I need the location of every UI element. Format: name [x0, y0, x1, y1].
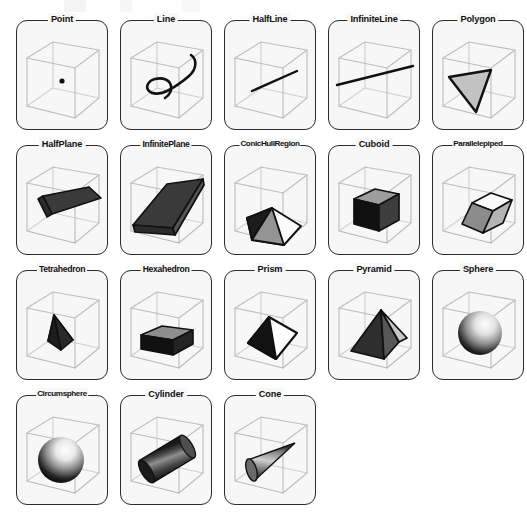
sphere-ball	[458, 311, 502, 355]
card-parallelepiped[interactable]: Parallelepiped	[432, 145, 524, 255]
card-polygon[interactable]: Polygon	[432, 20, 524, 130]
region-primitive-grid: Point Line	[16, 20, 516, 520]
viewport-infiniteplane	[121, 153, 213, 254]
card-title-parallelepiped: Parallelepiped	[452, 138, 503, 150]
viewport-hexahedron	[121, 278, 213, 379]
card-circumsphere[interactable]: Circumsphere	[16, 395, 108, 505]
viewport-halfplane	[17, 153, 109, 254]
card-hexahedron[interactable]: Hexahedron	[120, 270, 212, 380]
viewport-line	[121, 28, 213, 129]
circumsphere-ball	[38, 437, 84, 483]
viewport-point	[17, 28, 109, 129]
card-prism[interactable]: Prism	[224, 270, 316, 380]
card-title-prism: Prism	[255, 263, 286, 275]
point-marker	[59, 78, 64, 83]
card-pyramid[interactable]: Pyramid	[328, 270, 420, 380]
viewport-cylinder	[121, 403, 213, 504]
card-title-infiniteline: InfiniteLine	[347, 13, 400, 25]
cone-body	[244, 443, 295, 482]
card-title-cone: Cone	[256, 388, 284, 400]
card-halfplane[interactable]: HalfPlane	[16, 145, 108, 255]
card-halfline[interactable]: HalfLine	[224, 20, 316, 130]
card-title-hexahedron: Hexahedron	[141, 263, 192, 275]
card-title-pyramid: Pyramid	[353, 263, 394, 275]
viewport-polygon	[433, 28, 525, 129]
viewport-cone	[225, 403, 317, 504]
viewport-parallelepiped	[433, 153, 525, 254]
halfplane-slab-top	[43, 187, 101, 214]
infiniteline-segment	[337, 66, 413, 85]
card-cylinder[interactable]: Cylinder	[120, 395, 212, 505]
card-infiniteplane[interactable]: InfinitePlane	[120, 145, 212, 255]
card-title-halfline: HalfLine	[249, 13, 290, 25]
card-title-line: Line	[154, 13, 178, 25]
card-tetrahedron[interactable]: Tetrahedron	[16, 270, 108, 380]
card-line[interactable]: Line	[120, 20, 212, 130]
cuboid-face-front	[354, 199, 379, 231]
viewport-infiniteline	[329, 28, 421, 129]
card-title-circumsphere: Circumsphere	[36, 388, 88, 400]
card-point[interactable]: Point	[16, 20, 108, 130]
card-title-sphere: Sphere	[460, 263, 496, 275]
viewport-pyramid	[329, 278, 421, 379]
card-cuboid[interactable]: Cuboid	[328, 145, 420, 255]
card-sphere[interactable]: Sphere	[432, 270, 524, 380]
card-title-tetrahedron: Tetrahedron	[37, 263, 87, 275]
viewport-cuboid	[329, 153, 421, 254]
card-title-halfplane: HalfPlane	[39, 138, 86, 150]
card-infiniteline[interactable]: InfiniteLine	[328, 20, 420, 130]
viewport-conichullregion	[225, 153, 317, 254]
card-title-cuboid: Cuboid	[356, 138, 393, 150]
pyramid-face-left	[351, 310, 384, 359]
card-title-infiniteplane: InfinitePlane	[140, 138, 191, 150]
polygon-triangle	[449, 70, 491, 112]
viewport-prism	[225, 278, 317, 379]
card-conichullregion[interactable]: ConicHullRegion	[224, 145, 316, 255]
viewport-sphere	[433, 278, 525, 379]
viewport-circumsphere	[17, 403, 109, 504]
card-title-conichullregion: ConicHullRegion	[239, 138, 300, 150]
figure-sheet: Point Line	[0, 0, 527, 523]
card-title-polygon: Polygon	[457, 13, 498, 25]
scan-artifact	[0, 0, 527, 12]
viewport-halfline	[225, 28, 317, 129]
halfline-ray	[252, 71, 297, 91]
card-cone[interactable]: Cone	[224, 395, 316, 505]
card-title-point: Point	[48, 13, 76, 25]
viewport-tetrahedron	[17, 278, 109, 379]
card-title-cylinder: Cylinder	[145, 388, 187, 400]
